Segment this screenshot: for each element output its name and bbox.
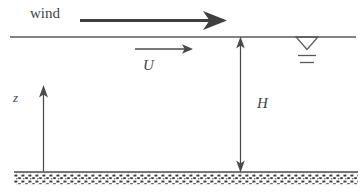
wind-driven-channel-flow-diagram: wind U H z <box>0 0 364 192</box>
wind-label: wind <box>30 6 60 21</box>
wind-arrow <box>80 11 227 30</box>
velocity-arrow <box>135 44 193 54</box>
channel-bed <box>14 172 358 184</box>
depth-dimension-arrow <box>236 37 245 173</box>
z-axis-arrow <box>39 85 48 171</box>
water-level-symbol <box>296 37 318 63</box>
depth-label: H <box>257 96 268 111</box>
diagram-canvas <box>0 0 364 192</box>
vertical-axis-label: z <box>13 91 18 104</box>
bed-sediment-hatching <box>14 173 358 184</box>
velocity-label: U <box>143 58 154 73</box>
